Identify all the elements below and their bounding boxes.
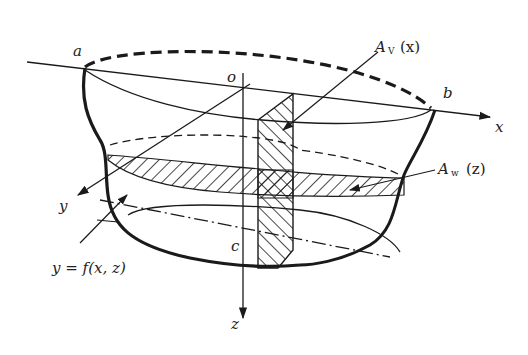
svg-text:w: w: [451, 168, 459, 178]
label-c: c: [231, 237, 240, 255]
x-axis: [27, 62, 490, 117]
label-surface-equation: y = f(x, z): [51, 259, 126, 277]
deck-edge-back: [85, 51, 431, 108]
svg-text:(x): (x): [400, 38, 420, 56]
vertical-section-area: [258, 94, 293, 268]
svg-text:A: A: [373, 38, 386, 56]
label-y-axis: y: [58, 197, 68, 215]
svg-text:V: V: [387, 46, 395, 56]
label-b: b: [443, 84, 453, 102]
centerline: [100, 200, 390, 257]
svg-text:(z): (z): [466, 160, 486, 178]
label-waterplane-section: A w (z): [436, 160, 486, 178]
label-a: a: [73, 42, 82, 60]
surface-leader: [80, 195, 127, 243]
av-leader: [283, 52, 378, 130]
label-vertical-section: A V (x): [373, 38, 420, 56]
label-x-axis: x: [495, 118, 504, 136]
svg-text:A: A: [436, 160, 449, 178]
label-z-axis: z: [230, 315, 239, 333]
label-o: o: [227, 68, 236, 86]
hull-diagram: a b o c x y z A V (x) A w (z) y = f(x, z…: [0, 0, 528, 355]
